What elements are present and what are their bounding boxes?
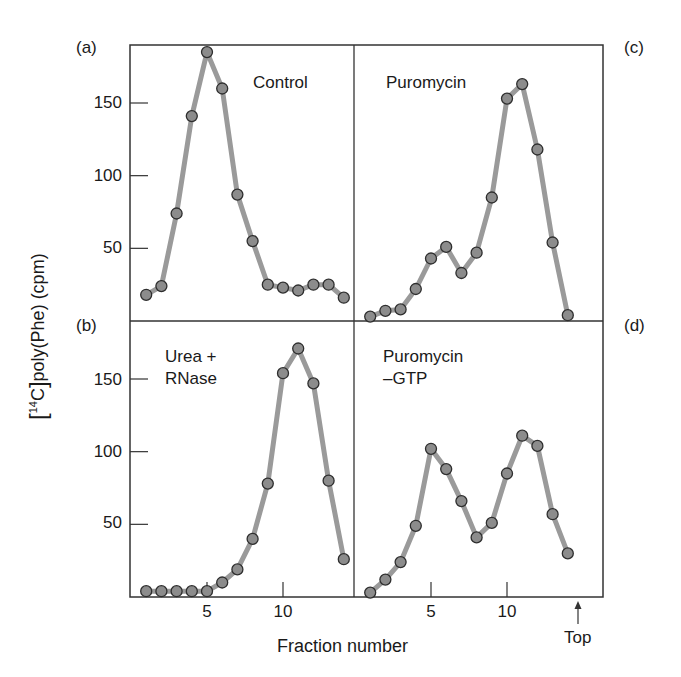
data-point: [365, 587, 376, 598]
data-point: [232, 189, 243, 200]
annotation-puromycin-gtp: Puromycin –GTP: [383, 346, 463, 390]
data-point: [171, 208, 182, 219]
series-panel-d: [365, 430, 574, 598]
data-point: [247, 533, 258, 544]
data-point: [323, 475, 334, 486]
data-series: [141, 47, 574, 599]
data-point: [471, 247, 482, 258]
data-point: [141, 586, 152, 597]
data-point: [293, 285, 304, 296]
data-point: [441, 241, 452, 252]
y-tick-label-top-50: 50: [82, 238, 122, 258]
data-point: [186, 586, 197, 597]
y-tick-label-bottom-150: 150: [82, 370, 122, 390]
panel-label-c: (c): [624, 38, 644, 58]
data-point: [547, 509, 558, 520]
data-point: [395, 304, 406, 315]
line-panel-a: [146, 52, 344, 298]
y-axis-title-element: C: [28, 388, 48, 401]
data-point: [202, 47, 213, 58]
panel-label-b: (b): [76, 316, 97, 336]
data-point: [278, 368, 289, 379]
annotation-control: Control: [253, 72, 308, 94]
data-point: [293, 343, 304, 354]
data-point: [547, 237, 558, 248]
data-point: [156, 281, 167, 292]
data-point: [323, 279, 334, 290]
line-panel-c: [370, 84, 568, 317]
data-point: [202, 586, 213, 597]
data-point: [380, 574, 391, 585]
top-marker-label: Top: [564, 628, 591, 648]
data-point: [156, 586, 167, 597]
data-point: [395, 557, 406, 568]
y-tick-label-top-150: 150: [82, 93, 122, 113]
line-panel-d: [370, 436, 568, 593]
x-tick-label-left-10: 10: [263, 602, 303, 622]
y-axis-title-close-bracket: ]: [24, 381, 51, 388]
data-point: [532, 144, 543, 155]
series-panel-c: [365, 79, 574, 323]
data-point: [426, 253, 437, 264]
y-axis-title-rest: poly(Phe) (cpm): [28, 253, 48, 381]
data-point: [456, 496, 467, 507]
data-point: [262, 279, 273, 290]
data-point: [562, 310, 573, 321]
x-tick-label-right-10: 10: [487, 602, 527, 622]
data-point: [141, 289, 152, 300]
y-tick-label-top-100: 100: [82, 166, 122, 186]
data-point: [502, 93, 513, 104]
data-point: [486, 192, 497, 203]
data-point: [562, 548, 573, 559]
data-point: [517, 430, 528, 441]
data-point: [486, 517, 497, 528]
data-point: [456, 268, 467, 279]
data-point: [532, 440, 543, 451]
y-tick-label-bottom-100: 100: [82, 442, 122, 462]
panel-label-a: (a): [76, 38, 97, 58]
data-point: [426, 443, 437, 454]
data-point: [441, 464, 452, 475]
x-axis-title: Fraction number: [277, 636, 408, 657]
data-point: [308, 378, 319, 389]
data-point: [471, 532, 482, 543]
x-tick-label-right-5: 5: [411, 602, 451, 622]
y-axis-title: [14C]poly(Phe) (cpm): [24, 253, 52, 420]
data-point: [186, 111, 197, 122]
series-panel-a: [141, 47, 350, 304]
data-point: [380, 305, 391, 316]
data-point: [232, 564, 243, 575]
top-arrow-icon: [575, 601, 582, 609]
data-point: [338, 292, 349, 303]
y-tick-label-bottom-50: 50: [82, 513, 122, 533]
annotation-puromycin: Puromycin: [386, 72, 466, 94]
data-point: [410, 284, 421, 295]
data-point: [308, 279, 319, 290]
data-point: [171, 586, 182, 597]
annotation-urea-rnase: Urea + RNase: [165, 346, 217, 390]
data-point: [247, 236, 258, 247]
data-point: [410, 520, 421, 531]
data-point: [262, 478, 273, 489]
data-point: [278, 282, 289, 293]
data-point: [502, 468, 513, 479]
data-point: [338, 554, 349, 565]
x-tick-label-left-5: 5: [187, 602, 227, 622]
y-axis-title-isotope-mass: 14: [27, 401, 39, 413]
data-point: [517, 79, 528, 90]
panel-label-d: (d): [624, 316, 645, 336]
data-point: [217, 83, 228, 94]
data-point: [217, 577, 228, 588]
data-point: [365, 311, 376, 322]
y-axis-title-open-bracket: [: [24, 413, 51, 420]
